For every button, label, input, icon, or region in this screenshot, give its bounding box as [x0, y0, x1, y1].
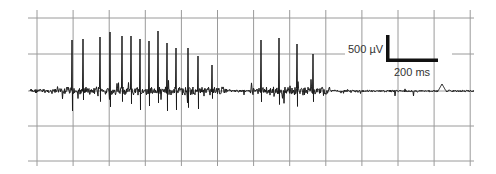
scale-bar-time-label: 200 ms: [394, 67, 430, 78]
scale-bar-vertical: [386, 35, 390, 62]
scale-bar-voltage-label: 500 µV: [348, 44, 383, 55]
emg-chart: [0, 0, 496, 174]
scale-bar-horizontal: [386, 59, 438, 63]
scale-bar: [386, 35, 438, 62]
